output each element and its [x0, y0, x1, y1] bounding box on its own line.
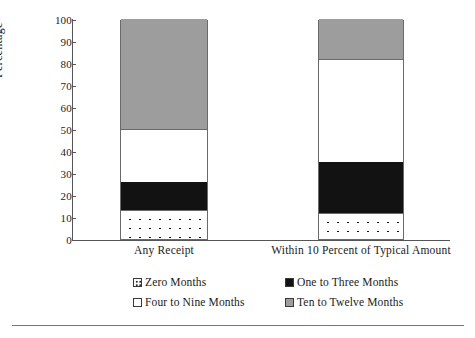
white-swatch-icon [133, 298, 142, 307]
black-swatch-icon [285, 278, 294, 287]
y-tick-label-20: 20 [46, 191, 72, 202]
bar-segment-ten-to-twelve-months[interactable] [121, 19, 207, 129]
footer-divider [12, 325, 464, 326]
bar-segment-zero-months[interactable] [319, 213, 403, 239]
legend-label-four-to-nine-months: Four to Nine Months [145, 296, 245, 308]
y-tick-mark-80 [72, 64, 76, 65]
y-tick-mark-70 [72, 86, 76, 87]
y-tick-mark-100 [72, 20, 76, 21]
y-tick-mark-50 [72, 130, 76, 131]
bar-any-receipt[interactable] [120, 20, 208, 240]
legend-item-zero-months[interactable]: Zero Months [133, 276, 285, 288]
bar-segment-zero-months[interactable] [121, 210, 207, 239]
y-tick-label-60: 60 [46, 103, 72, 114]
y-tick-mark-30 [72, 174, 76, 175]
y-tick-mark-40 [72, 152, 76, 153]
legend-label-zero-months: Zero Months [145, 276, 206, 288]
y-axis-title: Percentage [0, 22, 6, 78]
bar-segment-one-to-three-months[interactable] [319, 162, 403, 213]
y-tick-label-30: 30 [46, 169, 72, 180]
x-tick-label-within-10-percent: Within 10 Percent of Typical Amount [271, 244, 451, 256]
legend-label-one-to-three-months: One to Three Months [297, 276, 398, 288]
bar-segment-four-to-nine-months[interactable] [319, 59, 403, 162]
y-tick-mark-20 [72, 196, 76, 197]
y-tick-label-50: 50 [46, 125, 72, 136]
y-tick-label-40: 40 [46, 147, 72, 158]
y-tick-label-10: 10 [46, 213, 72, 224]
x-tick-label-any-receipt: Any Receipt [104, 244, 224, 256]
legend-item-four-to-nine-months[interactable]: Four to Nine Months [133, 296, 285, 308]
y-tick-label-0: 0 [46, 235, 72, 246]
bar-segment-ten-to-twelve-months[interactable] [319, 19, 403, 59]
y-tick-label-70: 70 [46, 81, 72, 92]
bar-segment-four-to-nine-months[interactable] [121, 129, 207, 182]
legend-item-ten-to-twelve-months[interactable]: Ten to Twelve Months [285, 296, 433, 308]
bar-segment-one-to-three-months[interactable] [121, 182, 207, 211]
y-tick-label-80: 80 [46, 59, 72, 70]
chart-legend: Zero Months One to Three Months Four to … [133, 272, 433, 312]
y-tick-mark-10 [72, 218, 76, 219]
legend-label-ten-to-twelve-months: Ten to Twelve Months [297, 296, 403, 308]
y-tick-mark-0 [72, 240, 76, 241]
x-axis-line [72, 240, 450, 241]
gray-swatch-icon [285, 298, 294, 307]
y-tick-mark-60 [72, 108, 76, 109]
y-tick-label-90: 90 [46, 37, 72, 48]
chart-figure: Percentage 100 90 80 70 60 50 40 30 20 1… [0, 0, 475, 338]
dotted-swatch-icon [133, 278, 142, 287]
y-tick-mark-90 [72, 42, 76, 43]
y-tick-label-100: 100 [46, 15, 72, 26]
legend-item-one-to-three-months[interactable]: One to Three Months [285, 276, 433, 288]
bar-within-10-percent-of-typical-amount[interactable] [318, 20, 404, 240]
